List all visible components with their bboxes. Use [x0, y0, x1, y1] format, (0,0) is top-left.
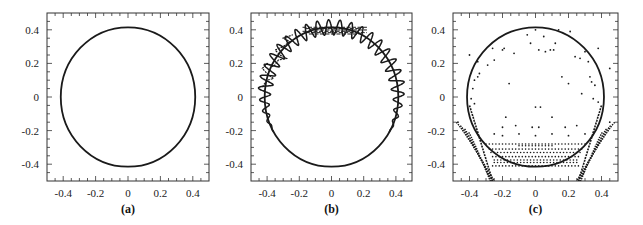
caption-b: (b) — [324, 202, 339, 216]
data-point — [574, 56, 576, 58]
data-point — [493, 133, 495, 135]
x-tick-label: -0.4 — [461, 187, 479, 199]
data-point — [551, 116, 553, 118]
x-tick-label: 0 — [329, 187, 335, 199]
x-tick-label: 0.4 — [186, 187, 200, 199]
boundary-circle — [61, 27, 195, 166]
data-point — [492, 47, 494, 49]
data-point — [508, 83, 510, 85]
x-tick-label: -0.2 — [291, 187, 308, 199]
data-point — [474, 79, 476, 81]
x-tick-label: -0.2 — [494, 187, 511, 199]
data-point — [540, 106, 542, 108]
data-point — [472, 88, 474, 90]
data-point — [535, 135, 537, 137]
y-tick-label: 0 — [238, 91, 244, 103]
y-tick-label: 0.4 — [431, 24, 445, 36]
y-tick-label: 0 — [34, 91, 40, 103]
data-point — [479, 73, 481, 75]
y-tick-label: -0.4 — [226, 158, 244, 170]
data-point — [568, 135, 570, 137]
y-tick-label: 0.2 — [431, 57, 445, 69]
y-tick-label: 0 — [440, 91, 446, 103]
data-point — [535, 106, 537, 108]
x-tick-label: 0.2 — [357, 187, 371, 199]
data-point — [589, 76, 591, 78]
caption-a: (a) — [121, 202, 135, 216]
data-point — [474, 103, 476, 105]
caption-c: (c) — [529, 202, 542, 216]
data-point — [581, 93, 583, 95]
data-point — [564, 126, 566, 128]
data-point — [584, 51, 586, 53]
data-point — [568, 83, 570, 85]
data-point — [592, 98, 594, 100]
oscillating-trajectory — [259, 20, 405, 132]
data-point — [477, 61, 479, 63]
y-tick-label: -0.2 — [226, 125, 243, 137]
data-point — [591, 81, 593, 83]
x-tick-label: 0 — [125, 187, 131, 199]
data-point — [543, 36, 545, 38]
x-tick-label: 0.2 — [562, 187, 576, 199]
data-point — [531, 126, 533, 128]
y-tick-label: 0.2 — [229, 57, 243, 69]
x-tick-label: -0.4 — [54, 187, 72, 199]
y-tick-label: 0.4 — [229, 24, 243, 36]
panel-b: -0.4-0.200.20.40.40.20-0.2-0.4 — [226, 13, 412, 199]
x-tick-label: 0.2 — [154, 187, 168, 199]
panel-c: -0.4-0.200.20.40.40.20-0.2-0.4 — [428, 13, 618, 199]
y-tick-label: 0.2 — [25, 57, 39, 69]
data-point — [538, 126, 540, 128]
data-point — [609, 68, 611, 70]
x-tick-label: 0.4 — [595, 187, 609, 199]
data-point — [502, 49, 504, 51]
data-point — [561, 76, 563, 78]
data-point — [487, 64, 489, 66]
data-point — [553, 49, 555, 51]
data-point — [554, 42, 556, 44]
y-tick-label: -0.4 — [428, 158, 446, 170]
data-point — [594, 84, 596, 86]
data-point — [587, 61, 589, 63]
data-point — [609, 121, 611, 123]
x-tick-label: 0 — [533, 187, 539, 199]
data-point — [502, 135, 504, 137]
data-point — [493, 59, 495, 61]
plot-frame — [47, 13, 209, 181]
data-point — [551, 133, 553, 135]
data-point — [558, 29, 560, 31]
data-point — [579, 57, 581, 59]
data-point — [538, 49, 540, 51]
data-point — [503, 47, 505, 49]
data-point — [513, 52, 515, 54]
data-point — [545, 51, 547, 53]
data-point — [576, 125, 578, 127]
y-tick-label: -0.2 — [428, 125, 445, 137]
panel-a: -0.4-0.200.20.40.40.20-0.2-0.4 — [22, 13, 209, 199]
data-point — [526, 34, 528, 36]
data-point — [502, 126, 504, 128]
data-point — [584, 133, 586, 135]
x-tick-label: -0.4 — [258, 187, 276, 199]
y-tick-label: 0.4 — [25, 24, 39, 36]
data-point — [530, 42, 532, 44]
data-point — [549, 49, 551, 51]
data-point — [505, 116, 507, 118]
y-tick-label: -0.2 — [22, 125, 39, 137]
y-tick-label: -0.4 — [22, 158, 40, 170]
x-tick-label: 0.4 — [389, 187, 403, 199]
data-point — [470, 98, 472, 100]
data-point — [597, 101, 599, 103]
figure: -0.4-0.200.20.40.40.20-0.2-0.4 -0.4-0.20… — [0, 0, 643, 225]
plot-frame — [251, 13, 412, 181]
x-tick-label: -0.2 — [87, 187, 104, 199]
data-point — [569, 31, 571, 33]
data-point — [518, 133, 520, 135]
data-point — [515, 125, 517, 127]
data-point — [535, 29, 537, 31]
data-point — [597, 47, 599, 49]
plot-frame — [453, 13, 618, 181]
data-point — [469, 54, 471, 56]
data-point — [477, 76, 479, 78]
